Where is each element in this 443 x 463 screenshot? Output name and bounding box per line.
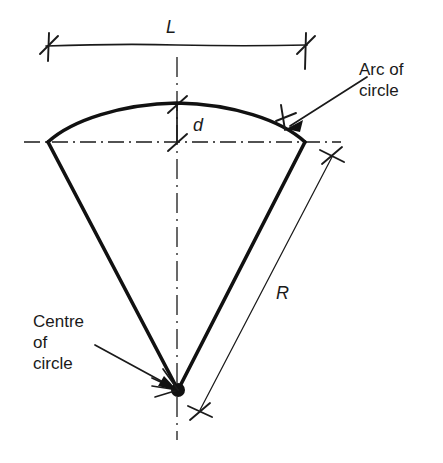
centre-of-circle-label-line1: Centre [33,312,84,331]
chord-left-extension-icon [48,33,49,61]
right-radius-line [178,142,305,390]
radius-label: R [276,283,289,303]
chord-dimension-line [46,44,307,46]
centre-of-circle-label-line3: circle [33,354,73,373]
arc-landing-tick-icon [276,113,296,121]
radius-bottom-cross-icon [188,406,212,417]
mid-ordinate-label: d [193,115,204,135]
chord-right-extension-icon [305,33,306,69]
centre-of-circle-label-line2: of [33,333,47,352]
left-radius-line [48,142,178,390]
arc-of-circle-label-line1: Arc of [359,60,404,79]
radius-top-cross-icon [320,150,344,162]
arc-of-circle-leader-line [290,77,367,126]
radius-dimension-group [188,147,344,420]
chord-length-label: L [166,17,176,37]
arc-of-circle-leader-group [276,77,367,132]
diagram-canvas: L d R Arc of circle Centre of circle [0,0,443,463]
arc-sector-diagram: L d R Arc of circle Centre of circle [0,0,443,463]
radius-dimension-line [200,157,332,410]
arc-of-circle-label-line2: circle [359,81,399,100]
